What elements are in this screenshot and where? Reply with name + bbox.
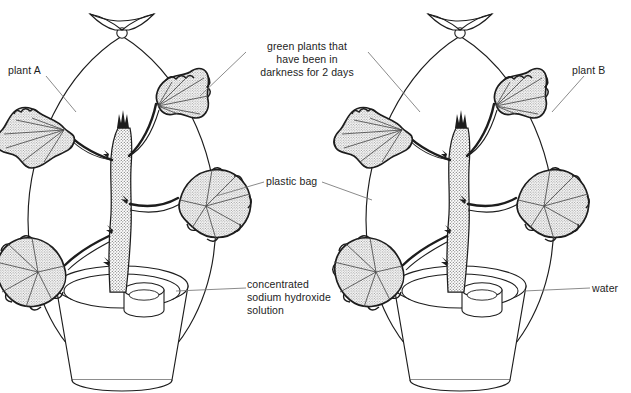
label-plastic-bag: plastic bag — [266, 175, 317, 188]
label-green-plants-darkness: green plants that have been in darkness … — [247, 40, 367, 79]
diagram-canvas: plant A plant B green plants that have b… — [0, 0, 631, 393]
label-plant-b: plant B — [572, 64, 605, 77]
label-water: water — [592, 282, 618, 295]
setup-plant-b — [333, 14, 590, 391]
label-plant-a: plant A — [8, 64, 41, 77]
label-sodium-hydroxide-solution: concentrated sodium hydroxide solution — [247, 278, 347, 317]
